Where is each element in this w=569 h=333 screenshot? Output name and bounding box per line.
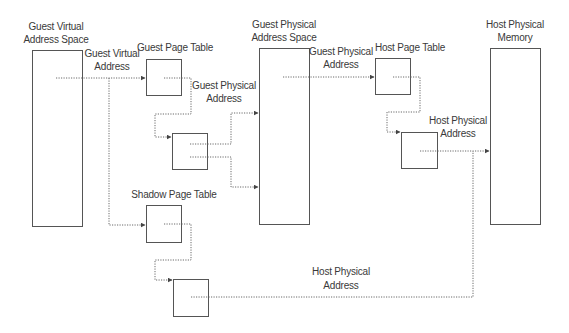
arrow-guest-pt-l1-to-l2: [155, 78, 191, 137]
host-physical-address-label-1-line1: Host Physical: [429, 114, 487, 127]
guest-virtual-address-label-line2: Address: [94, 60, 129, 73]
host-physical-address-label-2-line2: Address: [323, 279, 358, 292]
host-page-table-label: Host Page Table: [375, 41, 445, 54]
guest-page-table-label: Guest Page Table: [137, 41, 213, 54]
guest-virtual-space-label-line1: Guest Virtual: [28, 20, 83, 33]
shadow-page-table-label: Shadow Page Table: [131, 188, 216, 201]
host-physical-memory-label-line2: Memory: [498, 31, 533, 44]
arrow-host-pt-l1-to-l2: [387, 77, 420, 132]
host-physical-address-label-2-line1: Host Physical: [312, 265, 370, 278]
arrow-guest-pt-to-gpa-lower: [190, 157, 258, 187]
guest-physical-address-label-1-line1: Guest Physical: [192, 79, 256, 92]
guest-physical-space-label-line1: Guest Physical: [252, 18, 316, 31]
guest-physical-address-label-2-line1: Guest Physical: [309, 45, 373, 58]
arrow-shadow-pt-l1-to-l2: [155, 224, 191, 280]
guest-virtual-space-label-line2: Address Space: [23, 33, 88, 46]
guest-physical-address-label-1-line2: Address: [206, 92, 241, 105]
guest-virtual-address-label-line1: Guest Virtual: [84, 47, 139, 60]
host-physical-address-label-1-line2: Address: [440, 127, 475, 140]
guest-physical-address-label-2-line2: Address: [323, 58, 358, 71]
arrow-guest-pt-to-gpa-upper: [190, 113, 258, 144]
arrow-gva-to-shadow-pt: [109, 78, 145, 225]
guest-physical-space-label-line2: Address Space: [251, 31, 316, 44]
host-physical-memory-label-line1: Host Physical: [486, 18, 544, 31]
